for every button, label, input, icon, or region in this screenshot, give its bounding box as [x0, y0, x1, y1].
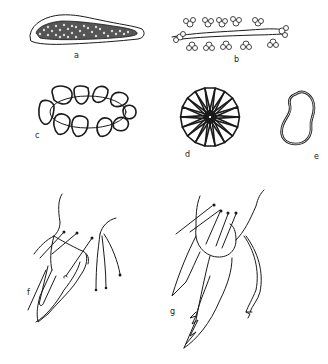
panel-label-g: g	[170, 308, 175, 316]
panel-label-c: c	[35, 132, 39, 140]
figure-drawings	[0, 0, 328, 364]
panel-label-a: a	[74, 52, 79, 60]
figure: a b c d e f g	[0, 0, 328, 364]
panel-c-drawing	[39, 86, 136, 136]
panel-b-drawing	[172, 17, 289, 51]
panel-label-d: d	[185, 151, 190, 159]
panel-g-drawing	[172, 190, 264, 348]
panel-label-b: b	[234, 56, 239, 64]
panel-f-drawing	[28, 194, 122, 322]
panel-e-drawing	[282, 92, 314, 144]
panel-label-f: f	[27, 289, 30, 297]
panel-a-drawing	[30, 15, 144, 45]
panel-label-e: e	[314, 153, 319, 161]
panel-d-drawing	[181, 88, 240, 146]
